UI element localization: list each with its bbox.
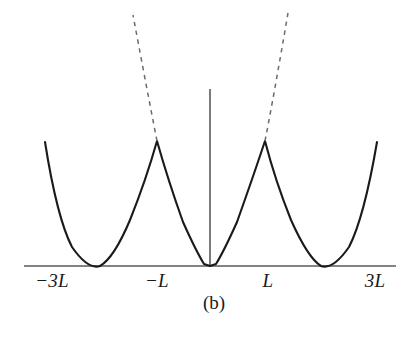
dashed-continuation-right — [265, 13, 288, 141]
x-tick-label-3L: 3L — [365, 270, 385, 292]
potential-curve-solid — [45, 141, 377, 267]
x-tick-label-minus-L: −L — [145, 270, 169, 292]
figure-caption: (b) — [203, 292, 225, 314]
x-tick-label-L: L — [263, 270, 274, 292]
dashed-continuation-left — [133, 15, 157, 141]
x-tick-label-minus-3L: −3L — [35, 270, 69, 292]
potential-figure: −3L −L L 3L (b) — [0, 0, 415, 342]
